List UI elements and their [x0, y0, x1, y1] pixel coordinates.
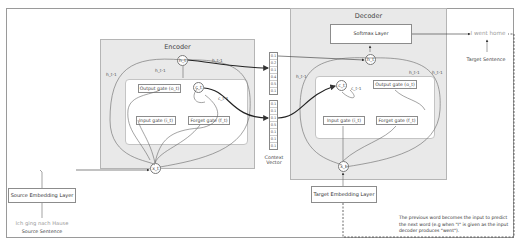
connection-wires — [0, 0, 523, 247]
